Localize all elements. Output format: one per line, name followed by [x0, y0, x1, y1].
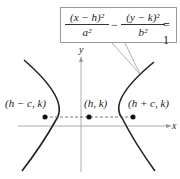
minus-sign: − — [111, 18, 118, 33]
equation-callout: (x − h)² a² − (y − k)² b² = 1 — [60, 7, 177, 43]
term2-numerator: (y − k)² — [121, 11, 165, 23]
center-point — [87, 115, 92, 120]
term2-fraction: (y − k)² b² — [121, 11, 165, 38]
center-label: (h, k) — [84, 97, 107, 109]
term1-fraction: (x − h)² a² — [65, 11, 109, 38]
x-axis-label: x — [172, 120, 176, 131]
y-axis-arrow-icon — [79, 56, 83, 62]
term1-numerator: (x − h)² — [65, 11, 109, 23]
left-branch — [22, 60, 59, 171]
left-focus-point — [43, 115, 48, 120]
right-focus-label: (h + c, k) — [128, 97, 169, 109]
callout-pointer — [112, 43, 140, 74]
right-focus-point — [131, 115, 136, 120]
y-axis-label: y — [79, 44, 83, 55]
right-branch — [119, 62, 155, 171]
term2-denominator: b² — [121, 26, 165, 38]
left-focus-label: (h − c, k) — [5, 97, 46, 109]
equals-one: = 1 — [163, 18, 176, 48]
term1-denominator: a² — [65, 26, 109, 38]
